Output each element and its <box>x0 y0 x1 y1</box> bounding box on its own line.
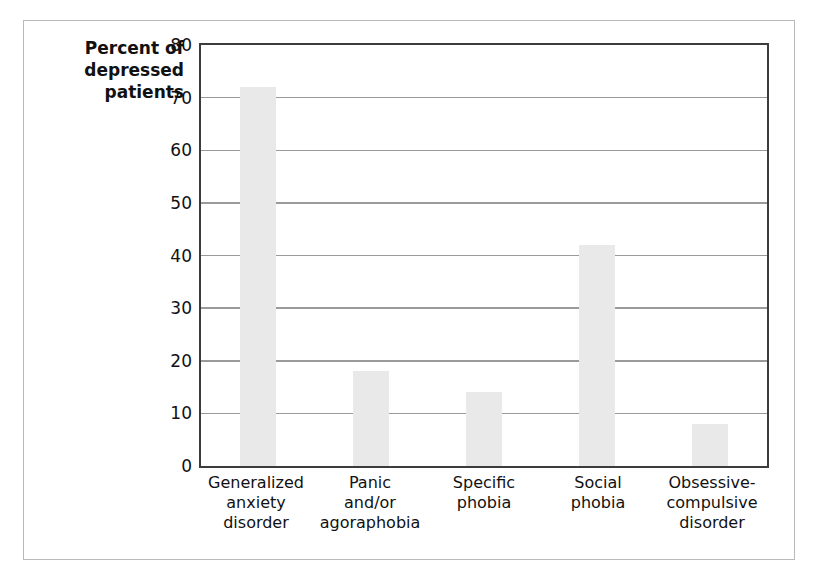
y-axis-tick-label: 70 <box>170 88 192 108</box>
y-axis-tick-label: 40 <box>170 246 192 266</box>
y-axis-tick-label: 60 <box>170 140 192 160</box>
x-axis-category-label: Generalized anxiety disorder <box>199 473 313 551</box>
chart-figure: Percent of depressed patients 0102030405… <box>23 20 795 560</box>
gridline <box>201 307 767 309</box>
gridline <box>201 360 767 362</box>
gridline <box>201 202 767 204</box>
bar <box>353 371 389 466</box>
x-axis-category-labels: Generalized anxiety disorderPanic and/or… <box>199 473 769 551</box>
gridline <box>201 97 767 99</box>
y-axis-tick-label: 30 <box>170 298 192 318</box>
y-axis-tick-label: 0 <box>181 456 192 476</box>
plot-area: 01020304050607080 <box>199 43 769 468</box>
x-axis-category-label: Social phobia <box>541 473 655 551</box>
y-axis-tick-label: 10 <box>170 403 192 423</box>
y-axis-tick-label: 80 <box>170 35 192 55</box>
bar <box>240 87 276 466</box>
bar <box>466 392 502 466</box>
y-axis-title: Percent of depressed patients <box>34 37 184 103</box>
y-axis-tick-label: 20 <box>170 351 192 371</box>
gridline <box>201 255 767 257</box>
y-axis-tick-label: 50 <box>170 193 192 213</box>
bar <box>579 245 615 466</box>
x-axis-category-label: Obsessive- compulsive disorder <box>655 473 769 551</box>
x-axis-category-label: Specific phobia <box>427 473 541 551</box>
gridline <box>201 150 767 152</box>
x-axis-category-label: Panic and/or agoraphobia <box>313 473 427 551</box>
bar <box>692 424 728 466</box>
